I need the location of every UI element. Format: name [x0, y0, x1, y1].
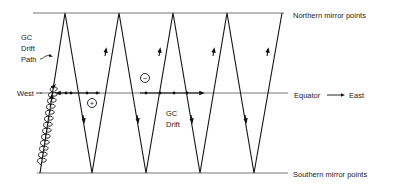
northern-mirror-label: Northern mirror points — [293, 11, 366, 20]
up-arrow-icon — [213, 50, 214, 56]
ion-charge-symbol: + — [88, 99, 97, 109]
southern-mirror-label: Southern mirror points — [293, 170, 367, 179]
gc-drift-diagram: + − GC Drift Path West GC Drift Northern… — [0, 0, 394, 186]
gc-drift-label-1: GC — [166, 109, 178, 118]
electron-charge-symbol: − — [141, 74, 150, 84]
svg-text:+: + — [90, 99, 95, 108]
gc-drift-path-label-2: Drift — [21, 44, 36, 53]
gc-drift-path-label-3: Path — [21, 55, 36, 64]
leader-arrow-icon — [40, 56, 51, 59]
gc-drift-label-2: Drift — [166, 120, 181, 129]
equator-label: Equator — [294, 91, 321, 100]
electron-drift-east — [140, 92, 202, 95]
up-arrow-icon — [105, 50, 106, 56]
gc-drift-path-label-1: GC — [21, 33, 33, 42]
west-label: West — [17, 89, 35, 98]
svg-text:−: − — [143, 74, 148, 83]
up-arrow-icon — [267, 50, 268, 56]
up-arrow-icon — [159, 50, 160, 56]
diagram-canvas: + − GC Drift Path West GC Drift Northern… — [0, 0, 394, 186]
east-label: East — [349, 91, 365, 100]
